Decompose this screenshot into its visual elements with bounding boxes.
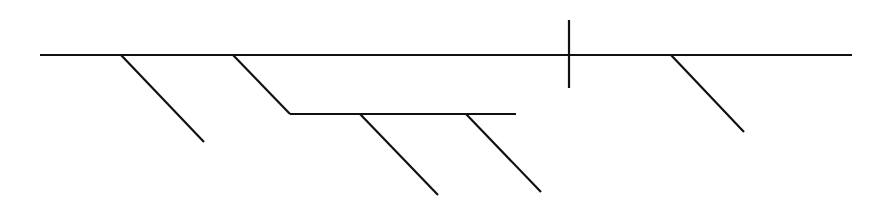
preposition-slant-line bbox=[233, 55, 290, 114]
object-modifier-2-line bbox=[466, 114, 541, 192]
modifier-1-line bbox=[121, 55, 204, 142]
sentence-diagram bbox=[0, 0, 886, 211]
predicate-modifier-line bbox=[671, 55, 744, 132]
object-modifier-1-line bbox=[360, 114, 438, 195]
